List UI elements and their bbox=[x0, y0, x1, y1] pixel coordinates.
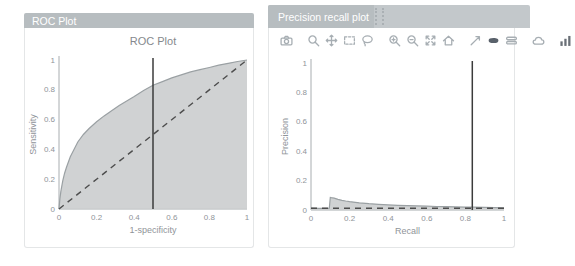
x-tick-label: 0 bbox=[309, 214, 314, 223]
x-tick-label: 0.6 bbox=[421, 214, 433, 223]
precision-recall-panel-title: Precision recall plot bbox=[278, 11, 369, 23]
x-tick-label: 0.6 bbox=[166, 213, 178, 222]
zoom-in-icon[interactable] bbox=[387, 33, 402, 48]
y-tick-label: 1 bbox=[51, 56, 56, 65]
modebar-group bbox=[531, 33, 549, 48]
y-tick-label: 0.4 bbox=[296, 147, 308, 156]
hover-closest-icon[interactable] bbox=[486, 33, 501, 48]
x-tick-label: 0.8 bbox=[460, 214, 472, 223]
roc-panel: ROC Plot ROC Plot00.20.40.60.8100.20.40.… bbox=[24, 13, 254, 248]
camera-icon[interactable] bbox=[279, 33, 294, 48]
plotly-logo-icon[interactable] bbox=[558, 33, 573, 48]
modebar-group bbox=[468, 33, 522, 48]
roc-panel-header[interactable]: ROC Plot bbox=[24, 13, 254, 28]
reset-axes-icon[interactable] bbox=[441, 33, 456, 48]
x-tick-label: 0 bbox=[57, 213, 62, 222]
y-tick-label: 0.6 bbox=[44, 115, 56, 124]
x-axis-title: Recall bbox=[395, 226, 420, 236]
precision-recall-title-zone: Precision recall plot bbox=[268, 5, 374, 28]
y-tick-label: 1 bbox=[303, 59, 308, 68]
y-tick-label: 0.8 bbox=[296, 88, 308, 97]
y-tick-label: 0 bbox=[303, 206, 308, 215]
modebar-group bbox=[558, 33, 575, 48]
y-tick-label: 0.2 bbox=[44, 175, 56, 184]
precision-recall-panel: Precision recall plot 00.20.40.60.8100.2… bbox=[268, 5, 530, 248]
precision-recall-chart[interactable]: 00.20.40.60.8100.20.40.60.81RecallPrecis… bbox=[269, 52, 514, 246]
zoom-icon[interactable] bbox=[306, 33, 321, 48]
modebar-group bbox=[306, 33, 378, 48]
y-tick-label: 0.8 bbox=[44, 85, 56, 94]
precision-recall-panel-body: 00.20.40.60.8100.20.40.60.81RecallPrecis… bbox=[268, 28, 515, 248]
x-tick-label: 0.2 bbox=[344, 214, 356, 223]
x-tick-label: 1 bbox=[245, 213, 250, 222]
roc-chart[interactable]: ROC Plot00.20.40.60.8100.20.40.60.811-sp… bbox=[25, 28, 253, 246]
zoom-out-icon[interactable] bbox=[405, 33, 420, 48]
lasso-icon[interactable] bbox=[360, 33, 375, 48]
y-tick-label: 0 bbox=[51, 205, 56, 214]
panel-drag-handle[interactable] bbox=[375, 8, 384, 25]
x-tick-label: 0.4 bbox=[129, 213, 141, 222]
x-tick-label: 0.2 bbox=[91, 213, 103, 222]
pan-icon[interactable] bbox=[324, 33, 339, 48]
modebar-group bbox=[387, 33, 459, 48]
autoscale-icon[interactable] bbox=[423, 33, 438, 48]
roc-panel-title: ROC Plot bbox=[32, 15, 76, 27]
roc-panel-body: ROC Plot00.20.40.60.8100.20.40.60.811-sp… bbox=[24, 28, 254, 248]
x-tick-label: 0.4 bbox=[383, 214, 395, 223]
y-tick-label: 0.2 bbox=[296, 176, 308, 185]
box-select-icon[interactable] bbox=[342, 33, 357, 48]
x-axis-title: 1-specificity bbox=[129, 225, 177, 235]
x-tick-label: 0.8 bbox=[204, 213, 216, 222]
modebar-group bbox=[279, 33, 297, 48]
y-axis-title: Precision bbox=[280, 118, 290, 155]
precision-recall-panel-header[interactable]: Precision recall plot bbox=[268, 5, 530, 28]
spikelines-icon[interactable] bbox=[468, 33, 483, 48]
y-tick-label: 0.6 bbox=[296, 117, 308, 126]
cloud-save-icon[interactable] bbox=[531, 33, 546, 48]
plotly-modebar bbox=[269, 28, 514, 52]
x-tick-label: 1 bbox=[502, 214, 507, 223]
y-tick-label: 0.4 bbox=[44, 145, 56, 154]
y-axis-title: Sensitivity bbox=[28, 114, 38, 155]
chart-title: ROC Plot bbox=[130, 35, 176, 47]
hover-compare-icon[interactable] bbox=[504, 33, 519, 48]
